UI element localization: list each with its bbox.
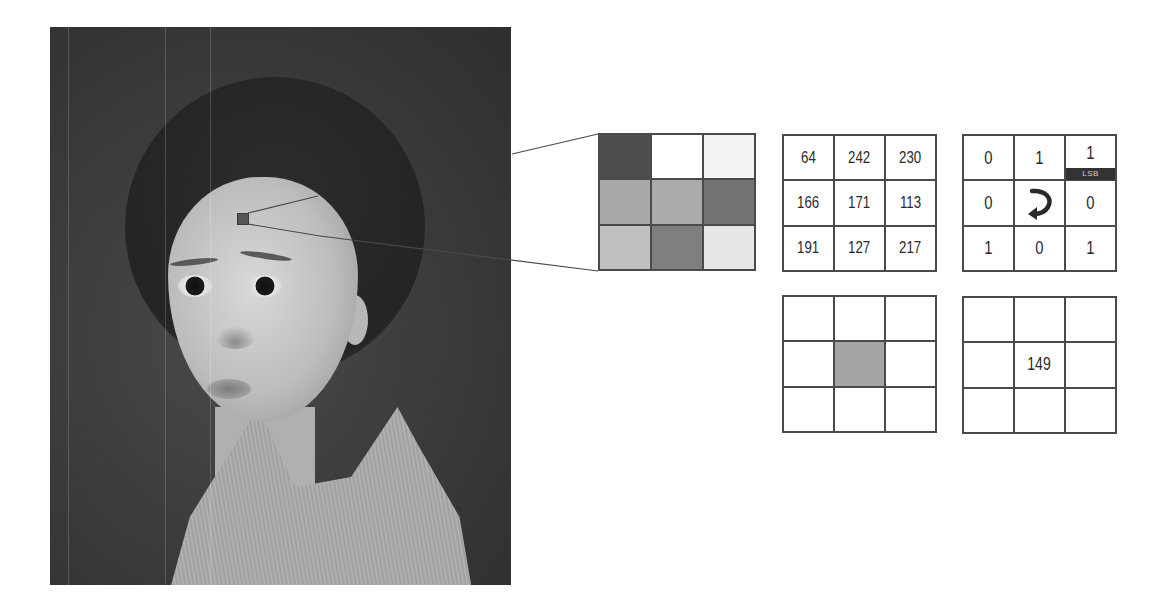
result-center-cell: 149 (1014, 342, 1065, 387)
bit-cell: 1 (1065, 226, 1116, 271)
empty-cell (963, 388, 1014, 433)
empty-cell (1065, 388, 1116, 433)
right-eye (248, 275, 282, 297)
value-cell: 191 (783, 226, 834, 271)
pixel-shade-cell (703, 134, 755, 179)
center-pixel-grid (782, 295, 937, 433)
bit-cell: 1 (1014, 135, 1065, 180)
left-eye (178, 275, 212, 297)
portrait-photo (50, 27, 511, 585)
sampled-pixel-marker (237, 213, 249, 225)
nose (215, 327, 255, 349)
bit-cell-center (1014, 180, 1065, 225)
lsb-label: LSB (1066, 168, 1115, 180)
pixel-shade-cell (651, 225, 703, 270)
empty-cell (963, 297, 1014, 342)
value-cell: 113 (885, 180, 936, 225)
value-cell: 217 (885, 226, 936, 271)
scan-streak (210, 27, 211, 585)
empty-cell (1014, 388, 1065, 433)
pixel-shade-cell (599, 225, 651, 270)
value-cell: 230 (885, 135, 936, 180)
empty-cell (1065, 342, 1116, 387)
value-cell: 242 (834, 135, 885, 180)
pixel-neighborhood-grid (598, 133, 756, 271)
bit-cell: 0 (1065, 180, 1116, 225)
scan-streak (165, 27, 166, 585)
scan-streak (68, 27, 69, 585)
bit-cell: 0 (1014, 226, 1065, 271)
pixel-value-grid: 64 242 230 166 171 113 191 127 217 (782, 134, 937, 272)
bit-cell: 0 (963, 135, 1014, 180)
curved-arrow-icon (1023, 186, 1057, 220)
pixel-shade-cell (651, 134, 703, 179)
pixel-shade-cell (703, 179, 755, 224)
value-cell: 166 (783, 180, 834, 225)
lbp-result-grid: 149 (962, 296, 1117, 434)
mouth (207, 379, 251, 399)
bit-cell-lsb: 1 LSB (1065, 135, 1116, 180)
empty-cell (1014, 297, 1065, 342)
empty-cell (834, 296, 885, 341)
value-cell: 64 (783, 135, 834, 180)
empty-cell (1065, 297, 1116, 342)
empty-cell (885, 296, 936, 341)
pixel-shade-cell (651, 179, 703, 224)
center-pixel-cell (834, 341, 885, 386)
empty-cell (783, 341, 834, 386)
bit-cell: 1 (963, 226, 1014, 271)
value-cell: 127 (834, 226, 885, 271)
pixel-shade-cell (599, 134, 651, 179)
binary-pattern-grid: 0 1 1 LSB 0 0 1 0 1 (962, 134, 1117, 272)
empty-cell (963, 342, 1014, 387)
empty-cell (783, 296, 834, 341)
pixel-shade-cell (703, 225, 755, 270)
empty-cell (885, 387, 936, 432)
bit-cell: 0 (963, 180, 1014, 225)
pixel-shade-cell (599, 179, 651, 224)
empty-cell (834, 387, 885, 432)
value-cell-center: 171 (834, 180, 885, 225)
empty-cell (783, 387, 834, 432)
empty-cell (885, 341, 936, 386)
